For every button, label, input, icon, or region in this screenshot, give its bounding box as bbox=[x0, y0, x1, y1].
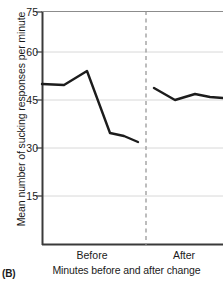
gridlines bbox=[42, 52, 223, 196]
data-line-before bbox=[42, 71, 138, 142]
plot-area bbox=[0, 0, 223, 283]
panel-label: (B) bbox=[2, 268, 15, 279]
x-group-label-before: Before bbox=[62, 249, 122, 261]
data-line-after bbox=[154, 88, 223, 100]
y-axis-ticks bbox=[36, 12, 42, 196]
x-group-label-after: After bbox=[155, 249, 213, 261]
figure-panel-b: Mean number of sucking responses per min… bbox=[0, 0, 223, 283]
x-axis-title: Minutes before and after change bbox=[30, 264, 223, 276]
